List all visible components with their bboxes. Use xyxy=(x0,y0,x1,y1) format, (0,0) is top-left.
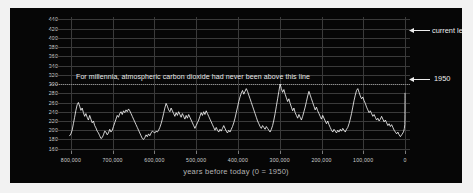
x-axis-tick-mark xyxy=(405,151,406,154)
annotation-year-1950: 1950 xyxy=(434,74,450,83)
x-axis-tick-label: 600,000 xyxy=(144,157,164,163)
x-axis-title: years before today (0 = 1950) xyxy=(10,167,462,176)
x-axis-tick-mark xyxy=(322,151,323,154)
x-axis-tick-label: 400,000 xyxy=(228,157,248,163)
x-axis-tick-label: 300,000 xyxy=(270,157,290,163)
x-axis-tick-label: 800,000 xyxy=(61,157,81,163)
x-axis-tick-mark xyxy=(280,151,281,154)
plot-area xyxy=(50,17,410,151)
chart-page: 4404204003803603403203002802602402202001… xyxy=(0,0,473,193)
x-axis-tick-mark xyxy=(71,151,72,154)
x-axis-tick-mark xyxy=(196,151,197,154)
x-axis-tick-mark xyxy=(154,151,155,154)
current-level-arrow-icon xyxy=(409,27,431,34)
year-1950-arrow-icon xyxy=(409,76,431,83)
x-axis-tick-label: 0 xyxy=(403,157,406,163)
x-axis-tick-mark xyxy=(238,151,239,154)
annotation-year-1950-text: 1950 xyxy=(434,74,450,83)
x-axis-tick-label: 200,000 xyxy=(311,157,331,163)
annotation-current-level-text: current level xyxy=(432,26,462,35)
x-axis-tick-label: 700,000 xyxy=(103,157,123,163)
co2-curve xyxy=(50,17,410,151)
x-axis-tick-mark xyxy=(363,151,364,154)
x-axis-tick-label: 500,000 xyxy=(186,157,206,163)
annotation-millennia-label: For millennia, atmospheric carbon dioxid… xyxy=(76,73,310,80)
x-axis-tick-mark xyxy=(113,151,114,154)
x-axis-tick-label: 100,000 xyxy=(353,157,373,163)
co2-chart-panel: 4404204003803603403203002802602402202001… xyxy=(10,8,462,183)
annotation-current-level: current level xyxy=(432,26,462,35)
